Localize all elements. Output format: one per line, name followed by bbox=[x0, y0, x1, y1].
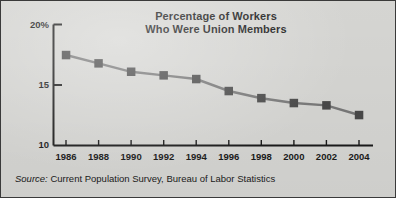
data-point-marker bbox=[62, 51, 71, 60]
data-point-marker bbox=[290, 99, 299, 108]
data-point-marker bbox=[94, 59, 103, 68]
y-axis-tick-label: 10 bbox=[9, 139, 49, 150]
data-point-marker bbox=[355, 111, 364, 120]
data-point-marker bbox=[159, 71, 168, 80]
chart-title: Percentage of Workers Who Were Union Mem… bbox=[121, 10, 311, 36]
data-point-marker bbox=[225, 87, 234, 96]
chart-series bbox=[62, 51, 364, 120]
data-point-marker bbox=[257, 94, 266, 103]
chart-title-line-2: Who Were Union Members bbox=[121, 23, 311, 36]
source-label: Source: bbox=[15, 173, 48, 184]
y-axis-tick-label: 20% bbox=[9, 19, 49, 30]
chart-figure: Percentage of Workers Who Were Union Mem… bbox=[0, 0, 396, 198]
source-text: Current Population Survey, Bureau of Lab… bbox=[48, 173, 275, 184]
source-note: Source: Current Population Survey, Burea… bbox=[15, 173, 275, 184]
data-point-marker bbox=[322, 101, 331, 110]
chart-x-ticks bbox=[66, 140, 359, 145]
x-axis-tick-label: 2004 bbox=[339, 151, 379, 162]
chart-title-line-1: Percentage of Workers bbox=[121, 10, 311, 23]
series-line bbox=[66, 55, 359, 115]
y-axis-tick-label: 15 bbox=[9, 79, 49, 90]
data-point-marker bbox=[127, 68, 135, 77]
data-point-marker bbox=[192, 75, 201, 84]
